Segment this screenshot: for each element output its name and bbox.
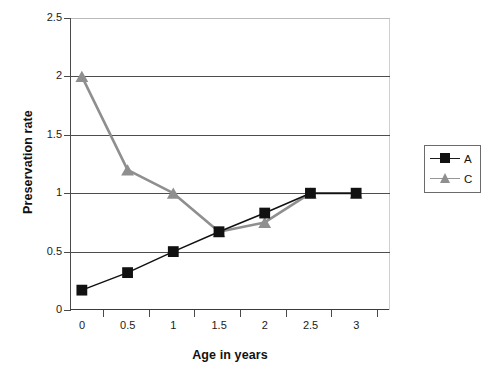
y-axis-tick (64, 135, 71, 136)
y-axis-tick (64, 310, 71, 311)
plot-frame-right (389, 18, 390, 310)
y-axis-tick (64, 193, 71, 194)
x-axis-tick (331, 310, 332, 317)
legend-item-a[interactable]: A (428, 150, 479, 168)
x-axis-tick (377, 310, 378, 317)
y-axis-label: 2.5 (22, 12, 62, 23)
chart-figure: 00.511.522.5 00.511.522.53 Preservation … (0, 0, 491, 391)
x-axis-label: 3 (336, 319, 376, 331)
square-marker-icon (440, 153, 450, 163)
x-axis-label: 2 (245, 319, 285, 331)
y-axis-title: Preservation rate (21, 72, 35, 252)
plot-area (70, 18, 390, 310)
y-axis-tick (64, 252, 71, 253)
legend-item-c[interactable]: C (428, 170, 479, 188)
x-axis-tick (194, 310, 195, 317)
x-axis-label: 2.5 (291, 319, 331, 331)
gridline-y (70, 18, 390, 19)
x-axis-label: 1.5 (199, 319, 239, 331)
y-axis-label: 0 (22, 304, 62, 315)
triangle-marker-icon (440, 173, 450, 183)
legend-label-a: A (464, 152, 472, 166)
gridline-y (70, 193, 390, 194)
gridline-y (70, 76, 390, 77)
x-axis-label: 0 (62, 319, 102, 331)
x-axis-title: Age in years (70, 348, 390, 362)
x-axis-tick (286, 310, 287, 317)
x-axis-label: 1 (153, 319, 193, 331)
y-axis-tick (64, 18, 71, 19)
y-axis-tick (64, 76, 71, 77)
gridline-y (70, 252, 390, 253)
x-axis-tick (103, 310, 104, 317)
gridline-y (70, 135, 390, 136)
x-axis-tick (240, 310, 241, 317)
x-axis-tick (149, 310, 150, 317)
legend-label-c: C (464, 172, 472, 186)
legend: A C (424, 145, 481, 193)
x-axis-label: 0.5 (108, 319, 148, 331)
